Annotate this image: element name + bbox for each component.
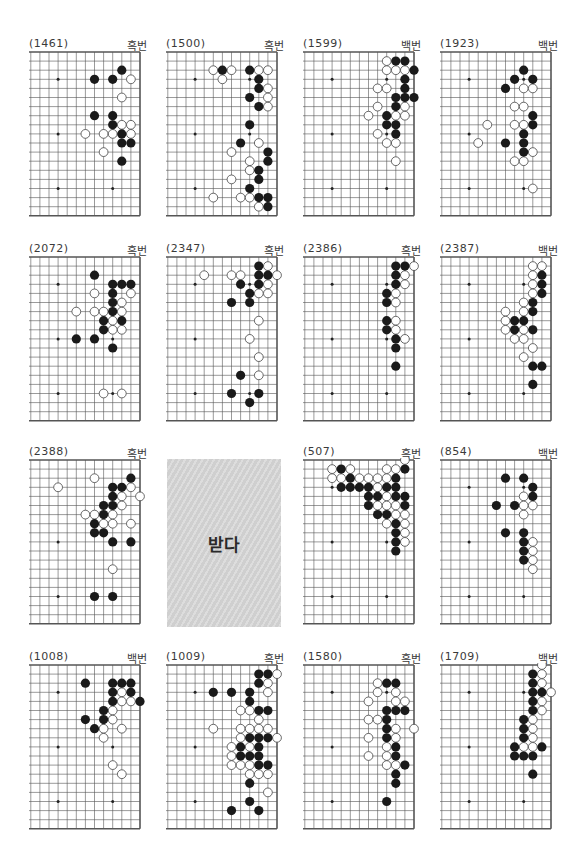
black-stone — [382, 679, 391, 688]
black-stone — [90, 75, 99, 84]
white-stone — [528, 84, 537, 93]
go-board — [440, 458, 564, 634]
black-stone — [501, 528, 510, 537]
white-stone — [108, 706, 117, 715]
go-board — [303, 50, 427, 226]
black-stone — [245, 733, 254, 742]
go-board — [440, 50, 564, 226]
black-stone — [245, 688, 254, 697]
star-point — [57, 691, 60, 694]
star-point — [194, 337, 197, 340]
black-stone — [528, 770, 537, 779]
white-stone — [519, 353, 528, 362]
black-stone — [391, 57, 400, 66]
black-stone — [537, 289, 546, 298]
star-point — [57, 800, 60, 803]
black-stone — [108, 343, 117, 352]
white-stone — [528, 271, 537, 280]
white-stone — [401, 510, 410, 519]
problem-number: (1923) — [440, 37, 480, 50]
black-stone — [510, 501, 519, 510]
black-stone — [373, 510, 382, 519]
white-stone — [391, 316, 400, 325]
white-stone — [245, 193, 254, 202]
star-point — [385, 187, 388, 190]
black-stone — [382, 715, 391, 724]
white-stone — [364, 733, 373, 742]
white-stone — [519, 335, 528, 344]
white-stone — [519, 492, 528, 501]
white-stone — [364, 474, 373, 483]
white-stone — [382, 501, 391, 510]
black-stone — [391, 492, 400, 501]
star-point — [385, 540, 388, 543]
star-point — [468, 486, 471, 489]
star-point — [248, 78, 251, 81]
black-stone — [391, 770, 400, 779]
white-stone — [538, 670, 547, 679]
star-point — [57, 540, 60, 543]
star-point — [194, 132, 197, 135]
answer-panel: 받다 — [167, 459, 281, 627]
black-stone — [391, 742, 400, 751]
black-stone — [108, 298, 117, 307]
white-stone — [519, 157, 528, 166]
white-stone — [264, 724, 273, 733]
black-stone — [346, 483, 355, 492]
black-stone — [218, 66, 227, 75]
go-board — [303, 663, 427, 839]
black-stone — [391, 129, 400, 138]
white-stone — [254, 66, 263, 75]
star-point — [194, 283, 197, 286]
black-stone — [528, 307, 537, 316]
white-stone — [401, 335, 410, 344]
black-stone — [254, 679, 263, 688]
white-stone — [538, 706, 547, 715]
black-stone — [391, 519, 400, 528]
star-point — [57, 392, 60, 395]
white-stone — [391, 139, 400, 148]
black-stone — [528, 111, 537, 120]
white-stone — [382, 57, 391, 66]
white-stone — [209, 66, 218, 75]
white-stone — [254, 316, 263, 325]
black-stone — [126, 537, 135, 546]
black-stone — [90, 592, 99, 601]
black-stone — [391, 93, 400, 102]
black-stone — [263, 271, 272, 280]
black-stone — [519, 148, 528, 157]
star-point — [57, 337, 60, 340]
black-stone — [99, 528, 108, 537]
star-point — [194, 745, 197, 748]
white-stone — [264, 84, 273, 93]
black-stone — [537, 362, 546, 371]
white-stone — [254, 770, 263, 779]
white-stone — [328, 465, 337, 474]
white-stone — [227, 752, 236, 761]
white-stone — [54, 483, 63, 492]
white-stone — [373, 130, 382, 139]
black-stone — [391, 779, 400, 788]
black-stone — [391, 280, 400, 289]
white-stone — [127, 519, 136, 528]
white-stone — [391, 510, 400, 519]
white-stone — [264, 93, 273, 102]
black-stone — [409, 66, 418, 75]
white-stone — [373, 715, 382, 724]
black-stone — [519, 715, 528, 724]
white-stone — [391, 157, 400, 166]
star-point — [331, 187, 334, 190]
white-stone — [273, 271, 282, 280]
white-stone — [501, 307, 510, 316]
star-point — [468, 78, 471, 81]
white-stone — [391, 289, 400, 298]
black-stone — [382, 298, 391, 307]
go-board — [166, 50, 290, 226]
problem-2388: (2388) 흑번 — [29, 445, 153, 635]
white-stone — [373, 501, 382, 510]
white-stone — [528, 715, 537, 724]
black-stone — [90, 334, 99, 343]
black-stone — [391, 362, 400, 371]
star-point — [468, 800, 471, 803]
white-stone — [264, 788, 273, 797]
